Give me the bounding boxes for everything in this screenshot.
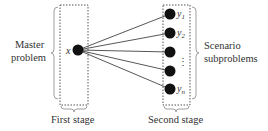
scenario-subproblems-brace [192,7,199,99]
first-stage-node [73,45,84,56]
scenario-node-4 [165,66,176,77]
scenario-label-1: y1 [176,8,185,21]
edges [78,14,170,89]
scenario-ellipsis: ⋮ [178,56,188,67]
master-problem-label-line1: Master [15,39,45,50]
edge-x-y4 [78,50,170,71]
scenario-subproblems-label-line1: Scenario [204,40,241,51]
edge-x-y1 [78,14,170,50]
scenario-label-n: yn [176,83,185,96]
master-problem-label-line2: problem [11,52,46,63]
scenario-node-2 [165,28,176,39]
first-stage-label: First stage [51,114,95,125]
edge-x-y3 [78,50,170,52]
first-stage-box [60,5,88,105]
scenario-node-3 [165,47,176,58]
scenario-label-2: y2 [176,27,185,40]
master-problem-brace [51,7,58,99]
second-stage-brace [164,106,189,112]
second-stage-label: Second stage [148,114,203,125]
scenario-node-n [165,84,176,95]
first-stage-brace [61,106,87,112]
edge-x-yn [78,50,170,89]
two-stage-diagram: x y1 y2 ⋮ yn Master problem Scenario sub… [0,0,268,131]
scenario-node-1 [165,9,176,20]
edge-x-y2 [78,33,170,50]
scenario-subproblems-label-line2: subproblems [204,53,258,64]
first-stage-variable-label: x [65,45,71,56]
